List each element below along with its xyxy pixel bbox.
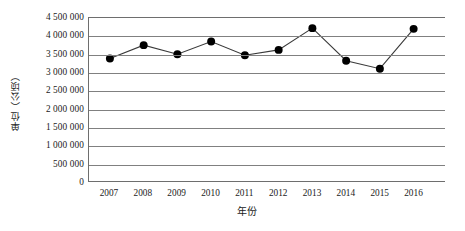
y-axis-tick-label: 2 500 000 [26, 85, 84, 95]
y-axis-tick-label: 2 000 000 [26, 104, 84, 114]
data-point: 2013: 4220000 [308, 24, 316, 32]
data-point: 2016: 4200000 [410, 25, 418, 33]
x-axis-tick-label: 2008 [134, 188, 153, 198]
gridline [89, 36, 445, 37]
gridline [89, 91, 445, 92]
data-point: 2010: 3850000 [207, 38, 215, 46]
x-axis-tick-label: 2011 [235, 188, 253, 198]
gridline [89, 110, 445, 111]
y-axis-tick-label: 3 500 000 [26, 49, 84, 59]
series-layer: 2007: 33800002008: 37500002009: 35000002… [89, 18, 445, 181]
data-point: 2014: 3320000 [342, 57, 350, 65]
gridline [89, 55, 445, 56]
y-axis-tick-label: 4 500 000 [26, 12, 84, 22]
y-axis-tick-label: 3 000 000 [26, 67, 84, 77]
x-axis-tick-label: 2009 [167, 188, 186, 198]
y-axis-tick-label: 500 000 [26, 159, 84, 169]
y-axis-tick-label: 1 000 000 [26, 140, 84, 150]
plot-area: 2007: 33800002008: 37500002009: 35000002… [88, 17, 445, 182]
x-axis-title-wrap: 年份 [0, 203, 465, 218]
data-point: 2007: 3380000 [106, 55, 114, 63]
x-axis-tick-label: 2014 [337, 188, 356, 198]
data-point: 2015: 3100000 [376, 65, 384, 73]
gridline [89, 165, 445, 166]
y-axis-title: 单位（公顷） [8, 56, 24, 146]
x-axis-tick-label: 2012 [269, 188, 288, 198]
x-axis-tick-label: 2007 [100, 188, 119, 198]
x-axis-tick-label: 2013 [303, 188, 322, 198]
data-point: 2008: 3750000 [140, 41, 148, 49]
x-axis-title: 年份 [237, 203, 257, 218]
x-axis-tick-label: 2010 [201, 188, 220, 198]
y-axis-tick-label: 1 500 000 [26, 122, 84, 132]
line-chart: 单位（公顷） 0500 0001 000 0001 500 0002 000 0… [0, 0, 465, 231]
gridline [89, 73, 445, 74]
gridline [89, 146, 445, 147]
x-axis-tick-label: 2015 [370, 188, 389, 198]
series-line [110, 28, 414, 69]
y-axis-tick-label: 4 000 000 [26, 30, 84, 40]
x-axis-tick-label: 2016 [404, 188, 423, 198]
data-point: 2012: 3620000 [275, 46, 283, 54]
gridline [89, 128, 445, 129]
y-axis-tick-label: 0 [26, 177, 84, 187]
y-axis-tick-labels: 0500 0001 000 0001 500 0002 000 0002 500… [24, 0, 84, 231]
